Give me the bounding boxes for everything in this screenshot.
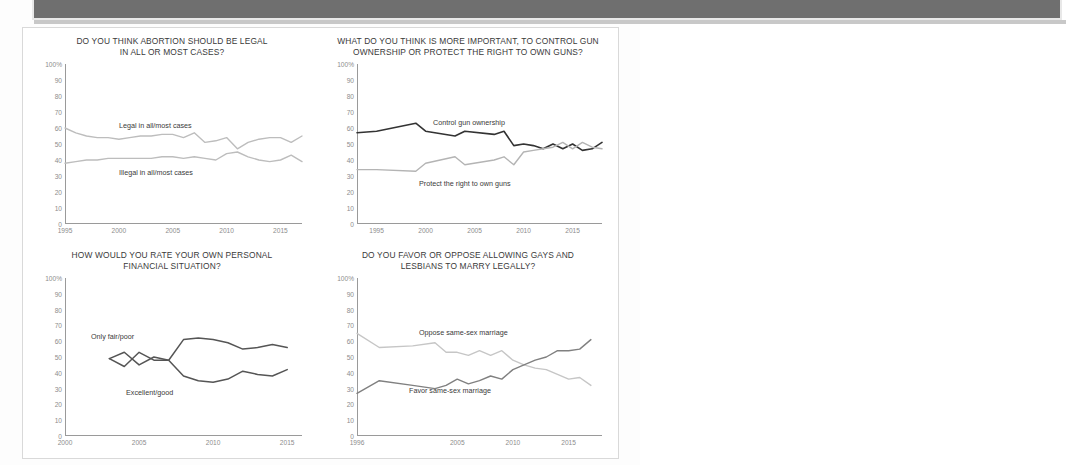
banner-shadow <box>34 20 1066 24</box>
series-lines <box>357 278 602 436</box>
y-axis-tick: 40 <box>55 369 65 376</box>
x-axis-tick: 2015 <box>273 224 288 234</box>
chart-title-line2: IN ALL OR MOST CASES? <box>31 47 313 58</box>
series-label-legal: Legal in all/most cases <box>119 121 192 130</box>
y-axis-tick: 40 <box>347 157 357 164</box>
x-axis-tick: 2000 <box>58 436 73 446</box>
series-label-excellent-good: Excellent/good <box>126 388 173 397</box>
chart-panel-marriage: DO YOU FAVOR OR OPPOSE ALLOWING GAYS AND… <box>323 250 613 450</box>
series-lines <box>65 64 302 224</box>
top-banner <box>32 0 1062 20</box>
series-line <box>357 123 602 150</box>
series-lines <box>65 278 302 436</box>
y-axis-tick: 70 <box>55 109 65 116</box>
y-axis-tick: 60 <box>55 125 65 132</box>
y-axis-tick: 20 <box>55 189 65 196</box>
y-axis-tick: 100% <box>337 61 357 68</box>
x-axis-tick: 2005 <box>467 224 482 234</box>
y-axis-tick: 10 <box>347 417 357 424</box>
y-axis-tick: 30 <box>347 173 357 180</box>
y-axis-tick: 80 <box>55 306 65 313</box>
plot-area-abortion: 100%908070605040302010019952000200520102… <box>65 64 302 224</box>
x-axis-tick: 2015 <box>561 436 576 446</box>
chart-panel-guns: WHAT DO YOU THINK IS MORE IMPORTANT, TO … <box>323 36 613 241</box>
y-axis-tick: 50 <box>55 141 65 148</box>
x-axis-tick: 2015 <box>565 224 580 234</box>
y-axis-tick: 50 <box>55 354 65 361</box>
x-axis-tick: 2010 <box>206 436 221 446</box>
y-axis-tick: 10 <box>55 417 65 424</box>
chart-title-line2: LESBIANS TO MARRY LEGALLY? <box>323 261 613 272</box>
series-line <box>65 152 302 163</box>
y-axis-tick: 70 <box>347 322 357 329</box>
y-axis-tick: 10 <box>347 205 357 212</box>
y-axis-tick: 50 <box>347 354 357 361</box>
x-axis-tick: 1996 <box>350 436 365 446</box>
y-axis-tick: 10 <box>55 205 65 212</box>
chart-title-line1: HOW WOULD YOU RATE YOUR OWN PERSONAL <box>31 250 313 261</box>
y-axis-tick: 90 <box>347 77 357 84</box>
chart-title-line2: OWNERSHIP OR PROTECT THE RIGHT TO OWN GU… <box>323 47 613 58</box>
series-label-control-guns: Control gun ownership <box>433 118 505 127</box>
y-axis-tick: 80 <box>55 93 65 100</box>
document-sheet: DO YOU THINK ABORTION SHOULD BE LEGAL IN… <box>22 27 619 459</box>
y-axis-tick: 60 <box>347 125 357 132</box>
y-axis-tick: 40 <box>347 369 357 376</box>
x-axis-tick: 2010 <box>516 224 531 234</box>
y-axis-tick: 50 <box>347 141 357 148</box>
y-axis-tick: 100% <box>45 275 65 282</box>
y-axis-tick: 90 <box>347 290 357 297</box>
y-axis-tick: 20 <box>55 401 65 408</box>
plot-area-marriage: 100%90807060504030201001996200520102015 <box>357 278 602 436</box>
series-line <box>109 352 287 382</box>
plot-area-finances: 100%90807060504030201002000200520102015 <box>65 278 302 436</box>
chart-title-line2: FINANCIAL SITUATION? <box>31 261 313 272</box>
x-axis-tick: 2005 <box>165 224 180 234</box>
series-label-illegal: Illegal in all/most cases <box>119 168 193 177</box>
y-axis-tick: 80 <box>347 306 357 313</box>
y-axis-tick: 100% <box>45 61 65 68</box>
y-axis-tick: 30 <box>347 385 357 392</box>
series-line <box>65 128 302 149</box>
y-axis-tick: 60 <box>347 338 357 345</box>
y-axis-tick: 40 <box>55 157 65 164</box>
y-axis-tick: 30 <box>55 173 65 180</box>
y-axis-tick: 100% <box>337 275 357 282</box>
y-axis-tick: 80 <box>347 93 357 100</box>
chart-panel-abortion: DO YOU THINK ABORTION SHOULD BE LEGAL IN… <box>31 36 313 241</box>
y-axis-tick: 90 <box>55 290 65 297</box>
y-axis-tick: 30 <box>55 385 65 392</box>
series-line <box>357 333 591 385</box>
y-axis-tick: 20 <box>347 189 357 196</box>
y-axis-tick: 0 <box>350 221 357 228</box>
chart-title-line1: WHAT DO YOU THINK IS MORE IMPORTANT, TO … <box>323 36 613 47</box>
x-axis-tick: 2015 <box>280 436 295 446</box>
x-axis-tick: 2010 <box>506 436 521 446</box>
chart-title-finances: HOW WOULD YOU RATE YOUR OWN PERSONAL FIN… <box>31 250 313 272</box>
x-axis-tick: 2000 <box>418 224 433 234</box>
y-axis-tick: 70 <box>347 109 357 116</box>
chart-title-abortion: DO YOU THINK ABORTION SHOULD BE LEGAL IN… <box>31 36 313 58</box>
chart-title-marriage: DO YOU FAVOR OR OPPOSE ALLOWING GAYS AND… <box>323 250 613 272</box>
x-axis-tick: 2010 <box>219 224 234 234</box>
chart-title-line1: DO YOU THINK ABORTION SHOULD BE LEGAL <box>31 36 313 47</box>
series-label-oppose-ssm: Oppose same-sex marriage <box>419 328 508 337</box>
plot-area-guns: 100%908070605040302010019952000200520102… <box>357 64 602 224</box>
series-label-fair-poor: Only fair/poor <box>91 332 134 341</box>
x-axis-tick: 2005 <box>450 436 465 446</box>
y-axis-tick: 60 <box>55 338 65 345</box>
series-lines <box>357 64 602 224</box>
chart-title-guns: WHAT DO YOU THINK IS MORE IMPORTANT, TO … <box>323 36 613 58</box>
series-label-protect-guns: Protect the right to own guns <box>419 179 511 188</box>
x-axis-tick: 2000 <box>112 224 127 234</box>
y-axis-tick: 90 <box>55 77 65 84</box>
x-axis-tick: 2005 <box>132 436 147 446</box>
series-label-favor-ssm: Favor same-sex marriage <box>409 386 491 395</box>
chart-panel-finances: HOW WOULD YOU RATE YOUR OWN PERSONAL FIN… <box>31 250 313 450</box>
x-axis-tick: 1995 <box>58 224 73 234</box>
y-axis-tick: 70 <box>55 322 65 329</box>
chart-title-line1: DO YOU FAVOR OR OPPOSE ALLOWING GAYS AND <box>323 250 613 261</box>
y-axis-tick: 20 <box>347 401 357 408</box>
x-axis-tick: 1995 <box>369 224 384 234</box>
